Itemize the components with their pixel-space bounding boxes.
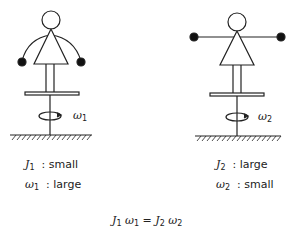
left-omega-row: ω1 : large bbox=[25, 178, 81, 192]
right-weight bbox=[77, 58, 85, 66]
right-weight bbox=[277, 33, 285, 41]
turntable bbox=[210, 93, 264, 96]
left-J-row: J1 : small bbox=[25, 158, 78, 172]
conservation-equation: J1 ω1 = J2 ω2 bbox=[112, 214, 182, 228]
head bbox=[42, 11, 60, 29]
turntable bbox=[25, 92, 79, 95]
right-omega-row: ω2 : small bbox=[216, 178, 274, 192]
body bbox=[34, 29, 68, 64]
left-weight bbox=[190, 33, 198, 41]
omega1-label: ω1 bbox=[73, 109, 87, 123]
head bbox=[228, 13, 246, 31]
left-weight bbox=[18, 58, 26, 66]
omega2-label: ω2 bbox=[258, 110, 272, 124]
diagram-canvas bbox=[0, 0, 302, 237]
right-J-row: J2 : large bbox=[216, 158, 268, 172]
body bbox=[220, 31, 254, 65]
